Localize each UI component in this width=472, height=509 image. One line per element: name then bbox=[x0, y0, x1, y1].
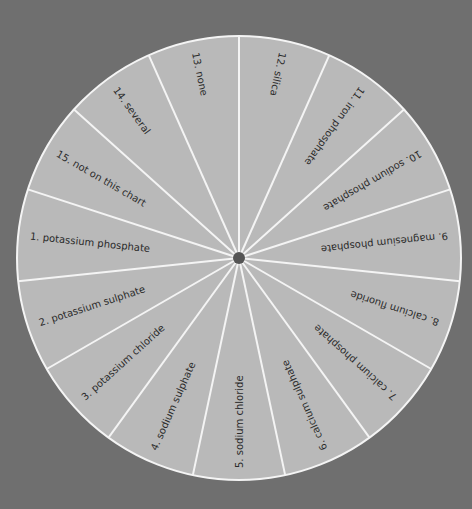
center-hub bbox=[233, 252, 245, 264]
chart-wheel: 1. potassium phosphate2. potassium sulph… bbox=[0, 0, 472, 509]
segment-label-5: 5. sodium chloride bbox=[234, 375, 245, 468]
